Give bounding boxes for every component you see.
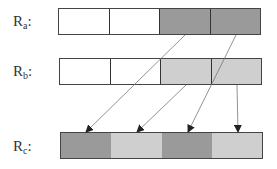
arrow-rb3-to-rc2 [137,85,186,132]
label-colon: : [27,13,31,29]
rb-cell-3 [160,59,211,84]
row-label-rc: Rc: [13,139,32,156]
ra-cell-1 [59,9,109,34]
label-colon: : [28,63,32,79]
rb-cell-2 [110,59,161,84]
row-label-rb: Rb: [13,64,32,81]
ra-cell-4 [210,9,261,34]
register-rb [59,58,262,85]
label-main: R [13,13,23,29]
label-main: R [13,138,23,154]
rb-cell-4 [211,59,262,84]
arrow-rb4-to-rc4 [237,85,238,132]
rb-cell-1 [60,59,110,84]
rc-cell-4 [212,133,262,158]
ra-cell-2 [109,9,160,34]
rc-cell-2 [111,133,161,158]
rc-cell-3 [162,133,212,158]
ra-cell-3 [159,9,210,34]
row-label-ra: Ra: [13,14,32,31]
register-ra [58,8,261,35]
register-rc [60,132,263,159]
rc-cell-1 [61,133,111,158]
label-colon: : [27,138,31,154]
label-main: R [13,63,23,79]
